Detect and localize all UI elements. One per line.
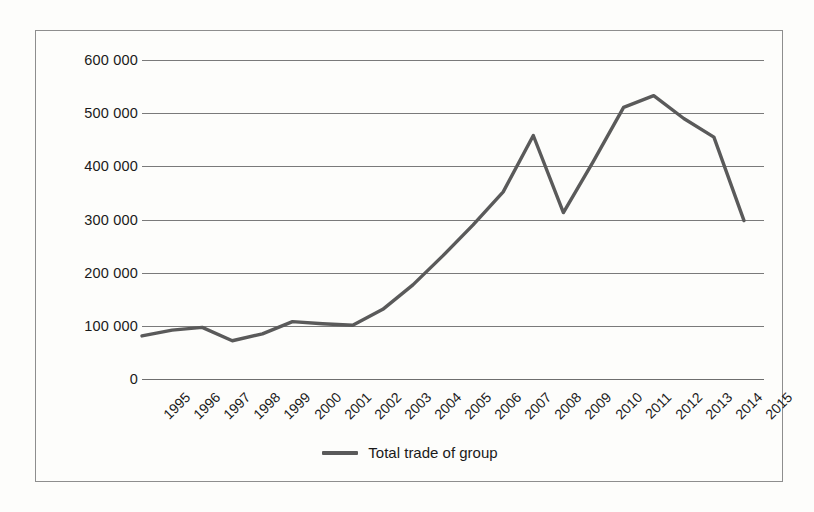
legend-swatch-total-trade-of-group [322, 451, 358, 455]
x-tick-label-2000: 2000 [311, 389, 344, 422]
x-tick-label-2005: 2005 [461, 389, 494, 422]
x-tick-label-2010: 2010 [612, 389, 645, 422]
legend-label-total-trade-of-group: Total trade of group [368, 444, 497, 461]
x-tick-label-2012: 2012 [672, 389, 705, 422]
x-tick-label-2002: 2002 [371, 389, 404, 422]
x-tick-label-1996: 1996 [190, 389, 223, 422]
x-tick-label-2009: 2009 [582, 389, 615, 422]
x-tick-label-1997: 1997 [220, 389, 253, 422]
x-tick-label-2007: 2007 [521, 389, 554, 422]
x-tick-label-2011: 2011 [641, 389, 674, 422]
x-tick-label-1998: 1998 [250, 389, 283, 422]
x-tick-label-2004: 2004 [431, 389, 464, 422]
x-tick-label-2014: 2014 [732, 389, 765, 422]
x-tick-label-2003: 2003 [401, 389, 434, 422]
x-tick-label-1995: 1995 [160, 389, 193, 422]
x-tick-label-2008: 2008 [551, 389, 584, 422]
x-axis: 1995199619971998199920002001200220032004… [36, 31, 784, 483]
chart-legend: Total trade of group [36, 444, 784, 461]
x-tick-label-2001: 2001 [341, 389, 374, 422]
x-tick-label-2015: 2015 [762, 389, 795, 422]
x-tick-label-2006: 2006 [491, 389, 524, 422]
plot-area: 0100 000200 000300 000400 000500 000600 … [36, 31, 784, 483]
x-tick-label-2013: 2013 [702, 389, 735, 422]
chart-page: 0100 000200 000300 000400 000500 000600 … [0, 0, 814, 512]
chart-frame: 0100 000200 000300 000400 000500 000600 … [35, 30, 783, 482]
x-tick-label-1999: 1999 [281, 389, 314, 422]
